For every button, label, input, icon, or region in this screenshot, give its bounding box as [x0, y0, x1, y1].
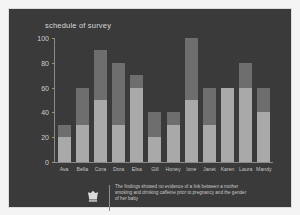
x-tick-label: Laura [239, 166, 252, 172]
x-axis-line [54, 162, 273, 163]
caption-divider [109, 185, 110, 211]
bar-segment-lower [112, 125, 125, 162]
bar-segment-upper [94, 50, 107, 100]
bar-segment-upper [58, 125, 71, 137]
bar-segment-lower [58, 137, 71, 162]
x-tick-label: Ava [60, 166, 69, 172]
crown-badge-icon [87, 190, 99, 203]
x-tick-label: Dora [113, 166, 124, 172]
bar-segment-upper [148, 112, 161, 137]
bar-laura [239, 38, 252, 162]
bar-segment-upper [239, 63, 252, 88]
caption-block: The findings showed no evidence of a lin… [81, 184, 251, 212]
bar-honey [167, 38, 180, 162]
x-tick-label: Mandy [256, 166, 272, 172]
bar-bella [76, 38, 89, 162]
bar-segment-lower [148, 137, 161, 162]
bar-karen [221, 38, 234, 162]
bar-segment-lower [221, 88, 234, 162]
bar-cora [94, 38, 107, 162]
x-tick-label: Karen [221, 166, 235, 172]
y-tick-label: 20 [9, 134, 49, 141]
x-tick-label: Elsa [132, 166, 142, 172]
bar-elsa [130, 38, 143, 162]
bar-segment-lower [76, 125, 89, 162]
bar-segment-upper [257, 88, 270, 113]
x-tick-label: Gill [151, 166, 159, 172]
bar-segment-upper [167, 112, 180, 124]
y-tick-label: 60 [9, 84, 49, 91]
x-tick-label: Bella [76, 166, 88, 172]
x-tick-label: Honey [166, 166, 181, 172]
y-tick-label: 0 [9, 159, 49, 166]
x-tick-label: Ione [186, 166, 196, 172]
y-tick-label: 100 [9, 35, 49, 42]
bar-gill [148, 38, 161, 162]
chart-panel: schedule of survey 020406080100 AvaBella… [8, 8, 292, 208]
bar-janet [203, 38, 216, 162]
bar-segment-lower [257, 112, 270, 162]
bar-mandy [257, 38, 270, 162]
bar-segment-lower [239, 88, 252, 162]
bar-segment-upper [130, 75, 143, 87]
bar-segment-lower [185, 100, 198, 162]
x-tick-label: Janet [203, 166, 216, 172]
bar-segment-lower [130, 88, 143, 162]
bar-segment-upper [76, 88, 89, 125]
y-tick-label: 40 [9, 109, 49, 116]
x-tick-label: Cora [95, 166, 106, 172]
bar-segment-lower [167, 125, 180, 162]
plot-area [55, 38, 273, 162]
bar-ava [58, 38, 71, 162]
bar-segment-upper [185, 38, 198, 100]
bar-segment-lower [94, 100, 107, 162]
y-tick-label: 80 [9, 59, 49, 66]
bar-segment-upper [203, 88, 216, 125]
bar-segment-upper [112, 63, 125, 125]
bar-dora [112, 38, 125, 162]
caption-text: The findings showed no evidence of a lin… [115, 184, 247, 203]
bar-segment-lower [203, 125, 216, 162]
screenshot-root: schedule of survey 020406080100 AvaBella… [0, 0, 300, 215]
page-title: schedule of survey [45, 21, 111, 30]
page-top-strip [0, 0, 300, 8]
y-tick-mark [52, 162, 55, 163]
bar-ione [185, 38, 198, 162]
